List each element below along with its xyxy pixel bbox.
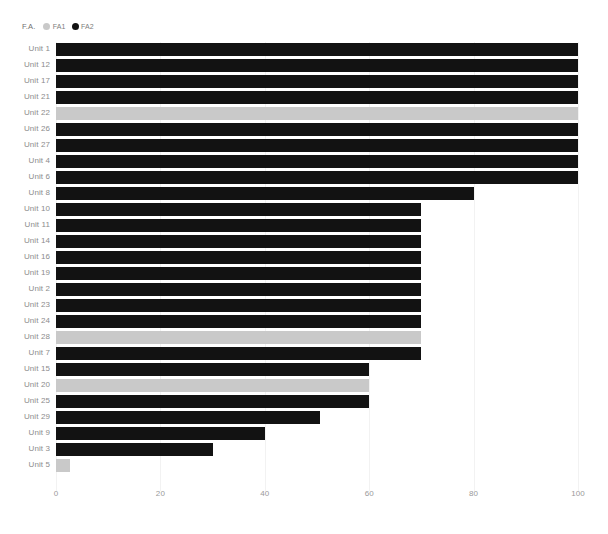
bar[interactable]: [56, 427, 265, 440]
gridline: [578, 42, 579, 491]
x-axis-tick-label: 20: [156, 489, 165, 498]
bar[interactable]: [56, 155, 578, 168]
legend-label-fa2: FA2: [81, 23, 94, 30]
y-axis-label: Unit 5: [29, 458, 51, 471]
legend-item-fa2[interactable]: FA2: [72, 23, 94, 30]
bar[interactable]: [56, 283, 421, 296]
bar-row: Unit 24: [56, 314, 578, 330]
bar-row: Unit 29: [56, 410, 578, 426]
y-axis-label: Unit 27: [24, 138, 50, 151]
y-axis-label: Unit 23: [24, 298, 50, 311]
bar[interactable]: [56, 107, 578, 120]
x-axis-tick-label: 0: [54, 489, 59, 498]
bar-row: Unit 17: [56, 74, 578, 90]
y-axis-label: Unit 20: [24, 378, 50, 391]
bar[interactable]: [56, 347, 421, 360]
bar[interactable]: [56, 251, 421, 264]
bar-row: Unit 15: [56, 362, 578, 378]
y-axis-label: Unit 6: [29, 170, 51, 183]
bar[interactable]: [56, 315, 421, 328]
bar-row: Unit 6: [56, 170, 578, 186]
y-axis-label: Unit 26: [24, 122, 50, 135]
legend-label-fa1: FA1: [53, 23, 66, 30]
bar[interactable]: [56, 363, 369, 376]
y-axis-label: Unit 25: [24, 394, 50, 407]
bar-row: Unit 12: [56, 58, 578, 74]
x-axis-tick-label: 60: [365, 489, 374, 498]
y-axis-label: Unit 16: [24, 250, 50, 263]
bar-row: Unit 9: [56, 426, 578, 442]
bar[interactable]: [56, 379, 369, 392]
y-axis-label: Unit 17: [24, 74, 50, 87]
y-axis-label: Unit 14: [24, 234, 50, 247]
bar-row: Unit 26: [56, 122, 578, 138]
bar-row: Unit 16: [56, 250, 578, 266]
bar-chart: F.A. FA1 FA2 Unit 1Unit 12Unit 17Unit 21…: [0, 0, 608, 534]
bar[interactable]: [56, 219, 421, 232]
bar-row: Unit 27: [56, 138, 578, 154]
y-axis-label: Unit 4: [29, 154, 51, 167]
bar-row: Unit 21: [56, 90, 578, 106]
y-axis-label: Unit 19: [24, 266, 50, 279]
bar[interactable]: [56, 395, 369, 408]
y-axis-label: Unit 3: [29, 442, 51, 455]
legend-swatch-fa1: [43, 23, 50, 30]
bar[interactable]: [56, 187, 474, 200]
legend: F.A. FA1 FA2: [22, 19, 94, 33]
bar[interactable]: [56, 331, 421, 344]
y-axis-label: Unit 8: [29, 186, 51, 199]
x-axis-tick-label: 40: [260, 489, 269, 498]
bar-row: Unit 4: [56, 154, 578, 170]
bar-row: Unit 20: [56, 378, 578, 394]
bar-row: Unit 14: [56, 234, 578, 250]
bar[interactable]: [56, 171, 578, 184]
bar-row: Unit 25: [56, 394, 578, 410]
y-axis-label: Unit 29: [24, 410, 50, 423]
bar-row: Unit 2: [56, 282, 578, 298]
bar[interactable]: [56, 203, 421, 216]
bar-row: Unit 3: [56, 442, 578, 458]
bar-row: Unit 5: [56, 458, 578, 474]
y-axis-label: Unit 22: [24, 106, 50, 119]
bar[interactable]: [56, 235, 421, 248]
bar[interactable]: [56, 91, 578, 104]
bar[interactable]: [56, 299, 421, 312]
bar[interactable]: [56, 459, 70, 472]
y-axis-label: Unit 15: [24, 362, 50, 375]
bar-row: Unit 19: [56, 266, 578, 282]
y-axis-label: Unit 28: [24, 330, 50, 343]
y-axis-label: Unit 12: [24, 58, 50, 71]
bar-row: Unit 28: [56, 330, 578, 346]
y-axis-label: Unit 10: [24, 202, 50, 215]
bar-row: Unit 23: [56, 298, 578, 314]
y-axis-label: Unit 1: [29, 42, 51, 55]
bar[interactable]: [56, 123, 578, 136]
bar-row: Unit 1: [56, 42, 578, 58]
bar[interactable]: [56, 43, 578, 56]
y-axis-label: Unit 7: [29, 346, 51, 359]
bar-row: Unit 10: [56, 202, 578, 218]
bar-row: Unit 7: [56, 346, 578, 362]
legend-item-fa1[interactable]: FA1: [43, 23, 65, 30]
bar[interactable]: [56, 75, 578, 88]
bar[interactable]: [56, 139, 578, 152]
y-axis-label: Unit 9: [29, 426, 51, 439]
bar[interactable]: [56, 267, 421, 280]
plot-area: Unit 1Unit 12Unit 17Unit 21Unit 22Unit 2…: [56, 42, 578, 483]
bar-row: Unit 8: [56, 186, 578, 202]
legend-swatch-fa2: [72, 23, 79, 30]
x-axis-tick-label: 80: [469, 489, 478, 498]
bar-row: Unit 22: [56, 106, 578, 122]
y-axis-label: Unit 2: [29, 282, 51, 295]
x-axis: 020406080100: [56, 489, 578, 509]
bar[interactable]: [56, 443, 213, 456]
y-axis-label: Unit 21: [24, 90, 50, 103]
y-axis-label: Unit 24: [24, 314, 50, 327]
bar-row: Unit 11: [56, 218, 578, 234]
x-axis-tick-label: 100: [571, 489, 585, 498]
bar-rows: Unit 1Unit 12Unit 17Unit 21Unit 22Unit 2…: [56, 42, 578, 483]
legend-title: F.A.: [22, 22, 35, 31]
bar[interactable]: [56, 59, 578, 72]
bar[interactable]: [56, 411, 320, 424]
y-axis-label: Unit 11: [25, 218, 50, 231]
